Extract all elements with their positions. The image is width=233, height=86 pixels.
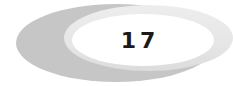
chapter-number-badge: 17 <box>0 0 233 86</box>
chapter-number: 17 <box>121 28 160 53</box>
inner-white-ellipse: 17 <box>72 14 214 66</box>
